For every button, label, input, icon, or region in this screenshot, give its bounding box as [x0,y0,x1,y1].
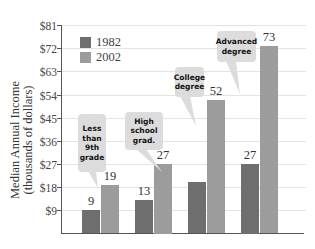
legend-item-2002: 2002 [80,50,121,64]
legend-label-2002: 2002 [96,50,121,65]
category-callout: College degree [175,67,204,97]
category-callout: High school grad. [125,112,163,150]
legend-label-1982: 1982 [96,35,121,50]
category-callout: Less than 9th grade [78,114,106,172]
category-callout: Advanced degree [217,31,256,62]
legend-swatch-1982 [80,37,91,48]
legend-swatch-2002 [80,52,91,63]
bar-chart: Median Annual Income (thousands of dolla… [0,0,315,249]
legend-item-1982: 1982 [80,35,121,49]
legend: 1982 2002 [80,35,121,65]
